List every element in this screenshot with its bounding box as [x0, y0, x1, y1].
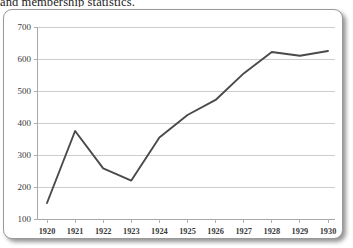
y-axis-group: 700600500400300200100 [18, 22, 38, 224]
x-axis-tick-label: 1925 [179, 227, 196, 236]
x-axis-tick-label: 1923 [123, 227, 140, 236]
y-axis-tick-label: 400 [18, 118, 32, 128]
x-axis-tick-label: 1929 [292, 227, 309, 236]
y-axis-tick-label: 600 [18, 54, 32, 64]
x-axis-tick-label: 1922 [95, 227, 112, 236]
x-axis-tick-label: 1921 [67, 227, 84, 236]
y-axis-tick-label: 200 [18, 182, 32, 192]
y-axis-tick-label: 300 [18, 150, 32, 160]
chart-figure-frame: 700600500400300200100 192019211922192319… [3, 9, 343, 239]
y-axis-tick-label: 500 [18, 86, 32, 96]
x-axis-tick-label: 1928 [264, 227, 281, 236]
x-axis-tick-label: 1930 [320, 227, 337, 236]
data-series-group [47, 51, 328, 203]
gridlines-group [37, 27, 335, 219]
y-axis-tick-label: 100 [18, 214, 32, 224]
x-axis-tick-label: 1927 [235, 227, 252, 236]
clipped-document-text: and membership statistics. [0, 0, 353, 7]
x-axis-tick-label: 1920 [39, 227, 56, 236]
chart-plot-area: 700600500400300200100 192019211922192319… [4, 10, 344, 240]
data-line-membership [47, 51, 328, 203]
y-axis-tick-label: 700 [18, 22, 32, 32]
x-axis-tick-label: 1924 [151, 227, 168, 236]
line-chart-svg: 700600500400300200100 192019211922192319… [4, 10, 344, 240]
x-axis-group: 1920192119221923192419251926192719281929… [37, 219, 336, 236]
x-axis-tick-label: 1926 [207, 227, 224, 236]
